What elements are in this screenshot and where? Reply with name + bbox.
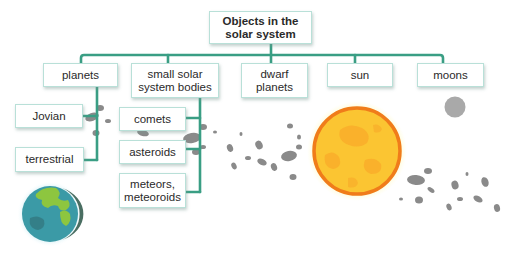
category-dwarf-planets: dwarf planets	[241, 63, 308, 98]
small-body-type-comets: comets	[119, 107, 186, 131]
root-node-objects-in-solar-system: Objects in the solar system	[209, 11, 312, 44]
moon-icon	[445, 97, 466, 118]
earth-icon	[17, 181, 83, 247]
planet-type-terrestrial: terrestrial	[15, 147, 84, 172]
small-body-type-asteroids: asteroids	[119, 140, 186, 164]
solar-system-diagram: Objects in the solar system planets smal…	[0, 0, 515, 256]
small-body-type-meteors-meteoroids: meteors, meteoroids	[119, 173, 186, 208]
category-moons: moons	[417, 63, 484, 87]
category-sun: sun	[327, 63, 393, 87]
category-small-solar-system-bodies: small solar system bodies	[131, 63, 219, 98]
planet-type-jovian: Jovian	[15, 104, 83, 128]
sun-icon	[307, 101, 407, 201]
category-planets: planets	[43, 63, 118, 87]
